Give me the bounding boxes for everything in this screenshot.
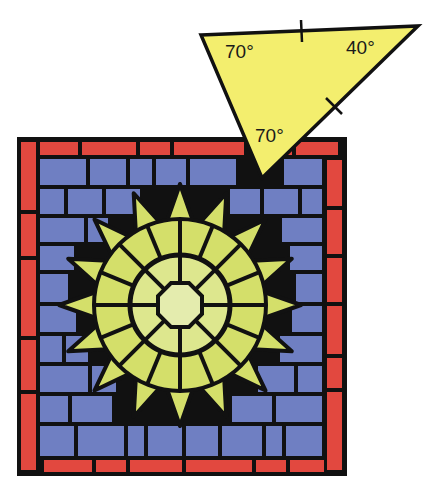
angle-label-top-left: 70°: [225, 41, 254, 62]
sun-center-octagon: [158, 283, 202, 327]
angle-label-top-right: 40°: [346, 37, 375, 58]
mosaic-figure: 70° 40° 70°: [0, 0, 437, 484]
tick-mark-top-side: [301, 20, 302, 42]
sun: [59, 184, 301, 426]
angle-label-bottom: 70°: [255, 125, 284, 146]
mosaic: [17, 137, 347, 476]
